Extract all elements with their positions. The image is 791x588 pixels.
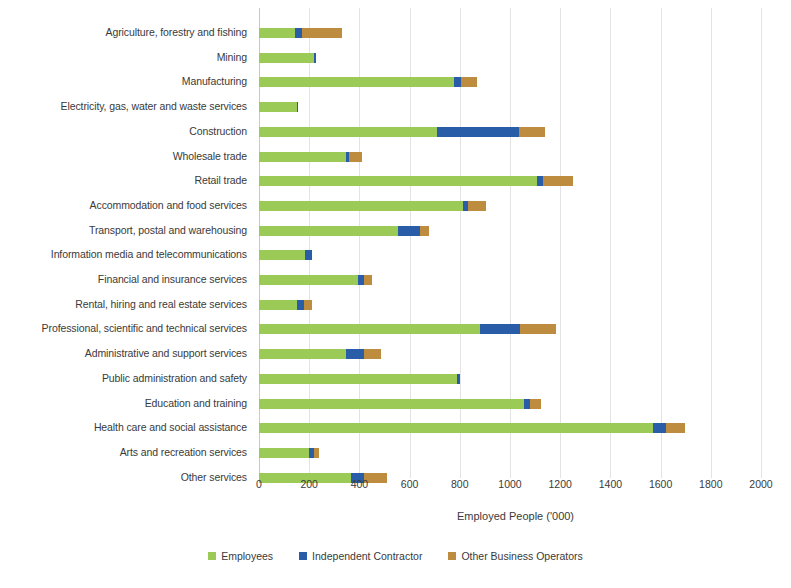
bar-row[interactable] bbox=[259, 77, 477, 87]
bar-row[interactable] bbox=[259, 324, 556, 334]
bar-segment-independent-contractor[interactable] bbox=[398, 226, 419, 236]
x-axis-tick-label: 600 bbox=[401, 478, 419, 490]
x-axis-tick-label: 0 bbox=[256, 478, 262, 490]
bar-segment-employees[interactable] bbox=[259, 226, 398, 236]
bar-segment-employees[interactable] bbox=[259, 127, 437, 137]
bar-segment-independent-contractor[interactable] bbox=[454, 77, 462, 87]
bar-segment-other-business-operators[interactable] bbox=[468, 201, 486, 211]
bar-segment-independent-contractor[interactable] bbox=[314, 53, 316, 63]
category-label: Professional, scientific and technical s… bbox=[42, 323, 247, 334]
category-label: Administrative and support services bbox=[85, 348, 247, 359]
bar-segment-employees[interactable] bbox=[259, 53, 314, 63]
bar-segment-employees[interactable] bbox=[259, 77, 454, 87]
bar-row[interactable] bbox=[259, 176, 573, 186]
bar-segment-independent-contractor[interactable] bbox=[346, 349, 365, 359]
stacked-bar-chart: Agriculture, forestry and fishingMiningM… bbox=[0, 0, 791, 588]
bar-segment-employees[interactable] bbox=[259, 275, 358, 285]
x-axis-tick-label: 1400 bbox=[599, 478, 622, 490]
bar-row[interactable] bbox=[259, 300, 312, 310]
legend-item[interactable]: Other Business Operators bbox=[448, 550, 582, 562]
bar-row[interactable] bbox=[259, 201, 486, 211]
bar-segment-other-business-operators[interactable] bbox=[304, 300, 312, 310]
legend-swatch-icon bbox=[208, 552, 216, 560]
bar-segment-other-business-operators[interactable] bbox=[530, 399, 541, 409]
bar-row[interactable] bbox=[259, 374, 460, 384]
legend-label: Employees bbox=[221, 550, 273, 562]
category-label: Mining bbox=[217, 52, 247, 63]
bar-segment-other-business-operators[interactable] bbox=[543, 176, 573, 186]
category-label: Education and training bbox=[145, 398, 247, 409]
bar-segment-employees[interactable] bbox=[259, 102, 297, 112]
x-axis-tick-label: 1800 bbox=[699, 478, 722, 490]
bar-row[interactable] bbox=[259, 250, 312, 260]
gridline bbox=[661, 8, 662, 478]
category-label: Financial and insurance services bbox=[98, 274, 247, 285]
category-label: Accommodation and food services bbox=[90, 200, 247, 211]
bar-segment-independent-contractor[interactable] bbox=[297, 300, 305, 310]
bar-segment-independent-contractor[interactable] bbox=[295, 28, 302, 38]
category-label: Wholesale trade bbox=[173, 151, 247, 162]
bar-segment-independent-contractor[interactable] bbox=[653, 423, 666, 433]
bar-segment-independent-contractor[interactable] bbox=[297, 102, 299, 112]
bar-segment-employees[interactable] bbox=[259, 176, 537, 186]
bar-segment-other-business-operators[interactable] bbox=[302, 28, 342, 38]
bar-row[interactable] bbox=[259, 102, 298, 112]
category-label: Electricity, gas, water and waste servic… bbox=[61, 101, 247, 112]
bar-row[interactable] bbox=[259, 349, 381, 359]
category-label: Information media and telecommunications bbox=[51, 249, 247, 260]
bar-segment-other-business-operators[interactable] bbox=[314, 448, 319, 458]
plot-wrapper: Agriculture, forestry and fishingMiningM… bbox=[0, 8, 791, 478]
bar-segment-employees[interactable] bbox=[259, 374, 457, 384]
category-label: Transport, postal and warehousing bbox=[89, 225, 247, 236]
bar-segment-employees[interactable] bbox=[259, 399, 524, 409]
legend-item[interactable]: Independent Contractor bbox=[299, 550, 422, 562]
bar-segment-employees[interactable] bbox=[259, 152, 346, 162]
bar-row[interactable] bbox=[259, 399, 541, 409]
bar-segment-other-business-operators[interactable] bbox=[519, 127, 545, 137]
category-label: Agriculture, forestry and fishing bbox=[106, 27, 247, 38]
x-axis-title-text: Employed People ('000) bbox=[457, 510, 574, 522]
bar-segment-other-business-operators[interactable] bbox=[461, 77, 477, 87]
bar-segment-other-business-operators[interactable] bbox=[666, 423, 685, 433]
bar-segment-employees[interactable] bbox=[259, 28, 295, 38]
bar-segment-employees[interactable] bbox=[259, 448, 309, 458]
bar-row[interactable] bbox=[259, 448, 319, 458]
category-label: Other services bbox=[181, 472, 247, 483]
bar-row[interactable] bbox=[259, 127, 545, 137]
bar-segment-independent-contractor[interactable] bbox=[305, 250, 311, 260]
gridline bbox=[560, 8, 561, 478]
bar-segment-other-business-operators[interactable] bbox=[364, 349, 380, 359]
bar-segment-employees[interactable] bbox=[259, 324, 480, 334]
bar-row[interactable] bbox=[259, 152, 362, 162]
bar-segment-employees[interactable] bbox=[259, 300, 297, 310]
x-axis-tick-label: 1000 bbox=[498, 478, 521, 490]
bar-row[interactable] bbox=[259, 423, 685, 433]
bar-row[interactable] bbox=[259, 28, 342, 38]
bar-segment-other-business-operators[interactable] bbox=[520, 324, 556, 334]
bar-row[interactable] bbox=[259, 275, 372, 285]
x-axis-tick-label: 2000 bbox=[749, 478, 772, 490]
bar-segment-independent-contractor[interactable] bbox=[480, 324, 520, 334]
legend-label: Other Business Operators bbox=[461, 550, 582, 562]
bar-segment-other-business-operators[interactable] bbox=[349, 152, 362, 162]
bar-segment-other-business-operators[interactable] bbox=[364, 275, 372, 285]
bar-segment-independent-contractor[interactable] bbox=[457, 374, 460, 384]
bar-segment-independent-contractor[interactable] bbox=[437, 127, 519, 137]
bar-row[interactable] bbox=[259, 226, 429, 236]
bar-segment-employees[interactable] bbox=[259, 201, 463, 211]
category-axis-labels: Agriculture, forestry and fishingMiningM… bbox=[0, 8, 253, 478]
bar-row[interactable] bbox=[259, 53, 316, 63]
category-label: Construction bbox=[189, 126, 247, 137]
bar-segment-employees[interactable] bbox=[259, 349, 346, 359]
x-axis-tick-label: 1200 bbox=[549, 478, 572, 490]
x-axis-title: Employed People ('000) bbox=[0, 510, 791, 522]
legend-item[interactable]: Employees bbox=[208, 550, 273, 562]
legend-swatch-icon bbox=[448, 552, 456, 560]
bar-segment-employees[interactable] bbox=[259, 423, 653, 433]
bar-segment-employees[interactable] bbox=[259, 250, 305, 260]
x-axis-tick-label: 1600 bbox=[649, 478, 672, 490]
bar-segment-other-business-operators[interactable] bbox=[420, 226, 430, 236]
category-label: Manufacturing bbox=[182, 76, 247, 87]
value-axis-ticks: 0200400600800100012001400160018002000 bbox=[259, 478, 761, 498]
chart-legend: EmployeesIndependent ContractorOther Bus… bbox=[0, 550, 791, 562]
